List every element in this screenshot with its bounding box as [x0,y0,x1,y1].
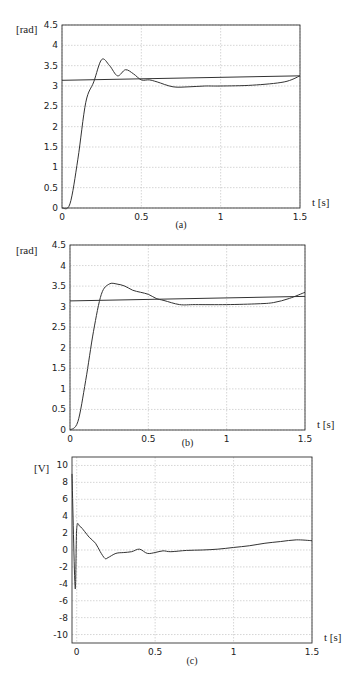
series-reference [70,296,305,301]
series-reference [62,76,300,80]
x-tick-label: 0 [74,647,80,657]
y-tick-label: -6 [59,596,68,606]
y-tick-label: 2.5 [44,101,58,111]
x-tick-label: 1.5 [293,212,307,222]
y-axis-label: [rad] [16,23,37,35]
figure: 00.511.522.533.544.500.511.5[rad]t [s](a… [0,0,354,683]
y-tick-label: 0 [62,545,68,555]
y-tick-label: 0.5 [52,404,66,414]
y-tick-label: 10 [57,460,69,470]
y-axis-label: [V] [34,462,49,474]
y-tick-label: 3 [52,81,58,91]
x-tick-label: 0.5 [148,647,162,657]
y-tick-label: 2 [52,122,58,132]
x-tick-label: 1 [231,647,237,657]
series-response [70,283,305,430]
x-tick-label: 1 [224,434,230,444]
plot-frame [70,245,305,430]
y-tick-label: 3.5 [52,281,66,291]
y-tick-label: 1.5 [44,142,58,152]
x-tick-label: 0 [59,212,65,222]
y-tick-label: -2 [59,562,68,572]
y-tick-label: 3.5 [44,61,58,71]
y-tick-label: 2.5 [52,322,66,332]
y-axis-label: [rad] [16,244,37,256]
x-axis-label: t [s] [317,418,334,430]
y-tick-label: 4 [62,511,68,521]
x-tick-label: 0.5 [134,212,148,222]
y-tick-label: 2 [60,343,66,353]
y-tick-label: 4.5 [52,240,66,250]
y-tick-label: -4 [59,579,68,589]
series-control-voltage [72,474,312,589]
chart-a: 00.511.522.533.544.500.511.5[rad]t [s](a… [16,20,329,231]
y-tick-label: 2 [62,528,68,538]
y-tick-label: 0.5 [44,183,58,193]
y-tick-label: 8 [62,477,68,487]
x-tick-label: 0.5 [141,434,155,444]
y-tick-label: 4.5 [44,20,58,30]
y-tick-label: 1 [60,384,66,394]
y-tick-label: 6 [62,494,68,504]
y-tick-label: -10 [53,630,68,640]
y-tick-label: 0 [60,425,66,435]
chart-b: 00.511.522.533.544.500.511.5[rad]t [s](b… [16,240,334,449]
panel-caption: (a) [175,219,186,231]
y-tick-label: 4 [52,40,58,50]
x-tick-label: 1.5 [305,647,319,657]
panel-caption: (b) [182,437,194,449]
x-axis-label: t [s] [324,631,341,643]
x-tick-label: 1 [218,212,224,222]
x-tick-label: 0 [67,434,73,444]
panel-caption: (c) [186,655,197,667]
y-tick-label: 3 [60,302,66,312]
y-tick-label: 1.5 [52,363,66,373]
x-tick-label: 1.5 [298,434,312,444]
y-tick-label: -8 [59,613,68,623]
plot-frame [62,25,300,208]
chart-c: -10-8-6-4-2024681000.511.5[V]t [s](c) [34,457,341,667]
y-tick-label: 1 [52,162,58,172]
y-tick-label: 0 [52,203,58,213]
series-response [62,59,300,209]
y-tick-label: 4 [60,261,66,271]
x-axis-label: t [s] [312,196,329,208]
